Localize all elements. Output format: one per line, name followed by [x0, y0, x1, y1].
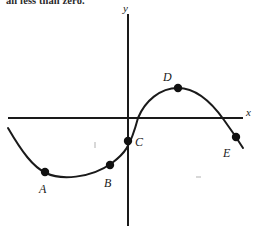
- point-c-label: C: [135, 135, 144, 149]
- point-b-label: B: [104, 176, 112, 190]
- point-a-marker: [41, 168, 49, 176]
- function-curve: [8, 88, 243, 177]
- scan-speck: [196, 176, 201, 178]
- graph-figure: x y A B C D E: [0, 0, 264, 234]
- point-e-label: E: [222, 146, 231, 160]
- point-c-marker: [124, 137, 132, 145]
- point-d-label: D: [162, 70, 172, 84]
- figure-page: all less than zero. x y A B C D E: [0, 0, 264, 234]
- x-axis-label: x: [245, 106, 251, 118]
- point-d-marker: [174, 84, 182, 92]
- y-axis-label: y: [122, 2, 128, 14]
- point-b-marker: [106, 161, 114, 169]
- point-e-marker: [232, 133, 240, 141]
- scan-speck: [94, 142, 96, 148]
- point-a-label: A: [38, 182, 47, 196]
